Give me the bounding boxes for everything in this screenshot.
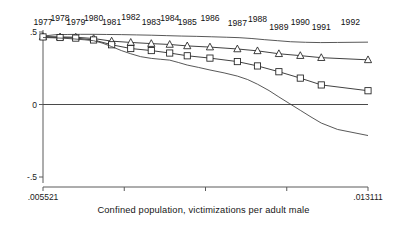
year-label-1985: 1985 [178,17,197,27]
tick-labels-group: .50-.5.005521.013111 [27,27,383,202]
square-marker [297,75,303,81]
square-marker [57,34,63,40]
square-marker [184,53,190,59]
square-marker [365,88,371,94]
y-axis-tick-label: .5 [30,27,37,37]
year-label-1987: 1987 [228,18,247,28]
year-label-1980: 1980 [84,13,103,23]
square-marker [40,34,46,40]
y-axis-tick-label: 0 [32,100,37,110]
square-marker [276,69,282,75]
square-marker [234,58,240,64]
square-marker [318,82,324,88]
square-marker [148,47,154,53]
year-label-1988: 1988 [248,14,267,24]
year-label-1983: 1983 [142,17,161,27]
x-axis-title: Confined population, victimizations per … [0,205,407,215]
year-label-1991: 1991 [312,22,331,32]
year-label-1989: 1989 [269,22,288,32]
year-label-1986: 1986 [200,13,219,23]
square-marker [73,35,79,41]
square-marker [91,37,97,43]
year-label-1979: 1979 [66,17,85,27]
year-label-1982: 1982 [121,12,140,22]
square-marker [167,50,173,56]
year-label-1984: 1984 [160,13,179,23]
y-axis-tick-label: -.5 [27,172,37,182]
year-label-1990: 1990 [291,17,310,27]
year-label-1992: 1992 [341,17,360,27]
square-marker [254,63,260,69]
chart-plot-area: 1977197819791980198119821983198419851986… [0,0,407,233]
year-annotations-group: 1977197819791980198119821983198419851986… [33,12,360,32]
x-axis-tick-label: .013111 [353,192,383,202]
square-marker [207,55,213,61]
data-series-group [39,33,371,136]
square-marker [128,45,134,51]
x-axis-tick-label: .005521 [28,192,59,202]
axes-group [39,30,368,191]
year-label-1981: 1981 [102,17,121,27]
chart-figure: 1977197819791980198119821983198419851986… [0,0,407,233]
